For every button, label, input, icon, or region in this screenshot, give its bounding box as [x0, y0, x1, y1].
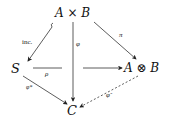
label-phi-star: φ*: [26, 84, 32, 90]
label-rho: ρ: [45, 70, 48, 78]
commutative-diagram: A × B S A ⊗ B C inc. φ π ρ φ* φ̃: [0, 0, 173, 126]
label-phi: φ: [76, 40, 80, 48]
node-s: S: [11, 61, 20, 76]
node-product: A × B: [55, 6, 90, 20]
phi-star-arrow: [23, 76, 67, 104]
label-pi: π: [119, 31, 123, 39]
node-tensor: A ⊗ B: [124, 61, 159, 75]
node-c: C: [67, 103, 77, 118]
label-inc: inc.: [22, 38, 32, 46]
label-phi-tilde: φ̃: [106, 91, 110, 99]
pi-arrow: [94, 22, 136, 59]
